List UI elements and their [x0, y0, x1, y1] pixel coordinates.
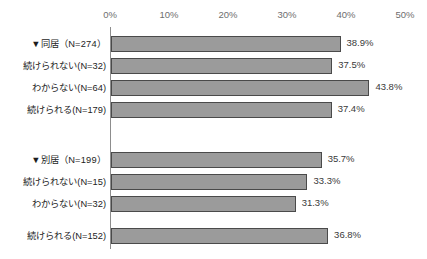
- bar[interactable]: [111, 102, 332, 118]
- x-tick-label: 20%: [218, 9, 237, 20]
- bar-row: 43.8%: [110, 80, 404, 96]
- x-tick-label: 10%: [159, 9, 178, 20]
- y-axis-category-labels: ▼同居（N=274）続けられない(N=32)わからない(N=64)続けられる(N…: [0, 27, 106, 249]
- bar[interactable]: [111, 228, 328, 244]
- bar-row: 35.7%: [110, 152, 404, 168]
- bar-row: 38.9%: [110, 36, 404, 52]
- y-axis-category-label: 続けられない(N=15): [2, 175, 106, 189]
- y-axis-category-label: 続けられる(N=152): [2, 229, 106, 243]
- bar[interactable]: [111, 152, 322, 168]
- bar-value-label: 37.4%: [338, 103, 365, 114]
- bar-row: 37.4%: [110, 102, 404, 118]
- plot-area: 38.9%37.5%43.8%37.4%35.7%33.3%31.3%36.8%: [110, 27, 404, 249]
- bar[interactable]: [111, 36, 341, 52]
- x-tick-label: 0%: [103, 9, 117, 20]
- bar[interactable]: [111, 174, 307, 190]
- bar-value-label: 33.3%: [313, 175, 340, 186]
- bar-value-label: 38.9%: [347, 37, 374, 48]
- bar[interactable]: [111, 58, 332, 74]
- y-axis-group-label: ▼別居（N=199）: [2, 153, 106, 167]
- bar-value-label: 37.5%: [338, 59, 365, 70]
- chart-title: [0, 0, 427, 3]
- bar-chart: 0%10%20%30%40%50% ▼同居（N=274）続けられない(N=32)…: [0, 0, 427, 259]
- chart-caption: [0, 252, 427, 259]
- bar-value-label: 36.8%: [334, 229, 361, 240]
- x-tick-label: 30%: [277, 9, 296, 20]
- y-axis-category-label: 続けられない(N=32): [2, 59, 106, 73]
- x-tick-label: 50%: [395, 9, 414, 20]
- bar-row: 36.8%: [110, 228, 404, 244]
- y-axis-category-label: 続けられる(N=179): [2, 103, 106, 117]
- y-axis-category-label: わからない(N=64): [2, 81, 106, 95]
- bar[interactable]: [111, 196, 296, 212]
- y-axis-category-label: わからない(N=32): [2, 197, 106, 211]
- bar-value-label: 35.7%: [328, 153, 355, 164]
- x-tick-label: 40%: [336, 9, 355, 20]
- bar-row: 33.3%: [110, 174, 404, 190]
- bar-row: 37.5%: [110, 58, 404, 74]
- x-axis-tick-labels: 0%10%20%30%40%50%: [0, 9, 427, 25]
- y-axis-group-label: ▼同居（N=274）: [2, 37, 106, 51]
- bar-value-label: 31.3%: [302, 197, 329, 208]
- bar-value-label: 43.8%: [375, 81, 402, 92]
- bar-row: 31.3%: [110, 196, 404, 212]
- bar[interactable]: [111, 80, 369, 96]
